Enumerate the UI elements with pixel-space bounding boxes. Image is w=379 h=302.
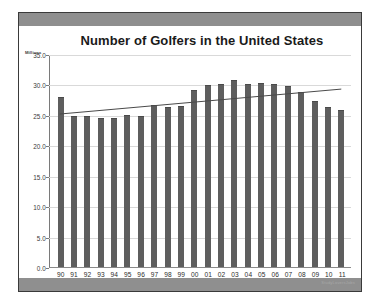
bar: [325, 107, 331, 267]
y-axis-tick-label: 0.0: [37, 265, 46, 272]
x-axis-tick-label: 04: [242, 271, 255, 278]
y-tick-mark: [46, 146, 49, 147]
x-axis-tick-label: 94: [108, 271, 121, 278]
x-axis-tick-label: 09: [309, 271, 322, 278]
y-tick-mark: [46, 207, 49, 208]
bar: [312, 101, 318, 267]
slide-header-bar: [19, 13, 361, 26]
bar-slot: [335, 55, 348, 267]
y-axis-tick-label: 20.0: [33, 143, 46, 150]
bar: [84, 116, 90, 267]
x-axis-tick-label: 92: [81, 271, 94, 278]
bar: [271, 84, 277, 267]
bar-slot: [121, 55, 134, 267]
bar: [151, 105, 157, 267]
x-axis-tick-label: 01: [201, 271, 214, 278]
x-axis-line: [49, 267, 351, 268]
bar: [98, 118, 104, 267]
slide-footer-bar: StudyLoversJobs: [19, 278, 361, 291]
slide-content: Number of Golfers in the United States M…: [19, 26, 361, 278]
y-axis-tick-label: 15.0: [33, 173, 46, 180]
bar: [165, 107, 171, 267]
bar: [205, 85, 211, 267]
bar-slot: [174, 55, 187, 267]
bar: [71, 116, 77, 267]
x-axis-tick-label: 07: [282, 271, 295, 278]
bar: [231, 80, 237, 267]
x-axis-tick-label: 03: [228, 271, 241, 278]
bar: [218, 84, 224, 267]
bar-slot: [268, 55, 281, 267]
x-axis-tick-label: 96: [134, 271, 147, 278]
x-axis-tick-label: 02: [215, 271, 228, 278]
x-axis-tick-label: 98: [161, 271, 174, 278]
bar-series: [50, 55, 351, 267]
bar-slot: [321, 55, 334, 267]
y-tick-mark: [46, 116, 49, 117]
x-axis-tick-label: 95: [121, 271, 134, 278]
bar-slot: [54, 55, 67, 267]
bar-slot: [201, 55, 214, 267]
bar: [124, 115, 130, 267]
bar-slot: [107, 55, 120, 267]
bar: [245, 84, 251, 267]
bar-slot: [228, 55, 241, 267]
bar: [285, 86, 291, 267]
x-axis-tick-label: 00: [188, 271, 201, 278]
bar: [298, 92, 304, 267]
bar: [138, 116, 144, 267]
chart-title: Number of Golfers in the United States: [19, 33, 361, 48]
bar-slot: [241, 55, 254, 267]
bar: [111, 118, 117, 267]
x-axis-tick-label: 05: [255, 271, 268, 278]
y-tick-mark: [46, 85, 49, 86]
x-axis-labels: 9091929394959697989900010203040506070809…: [50, 271, 352, 278]
y-axis-tick-label: 35.0: [33, 52, 46, 59]
bar-slot: [134, 55, 147, 267]
bar-slot: [94, 55, 107, 267]
y-axis-tick-label: 30.0: [33, 82, 46, 89]
bar: [58, 97, 64, 267]
bar-slot: [214, 55, 227, 267]
bar-slot: [148, 55, 161, 267]
bar-slot: [81, 55, 94, 267]
bar: [191, 90, 197, 267]
y-tick-mark: [46, 55, 49, 56]
bar: [178, 106, 184, 267]
y-axis-tick-label: 10.0: [33, 204, 46, 211]
x-axis-tick-label: 93: [94, 271, 107, 278]
chart-plot-area: 35.030.025.020.015.010.05.00.0: [49, 55, 351, 268]
y-axis-tick-label: 25.0: [33, 112, 46, 119]
bar-slot: [294, 55, 307, 267]
bar-slot: [254, 55, 267, 267]
bar-slot: [281, 55, 294, 267]
slide-frame: Number of Golfers in the United States M…: [18, 12, 362, 292]
bar-slot: [308, 55, 321, 267]
x-axis-tick-label: 10: [322, 271, 335, 278]
x-axis-tick-label: 08: [295, 271, 308, 278]
bar: [338, 110, 344, 267]
bar-slot: [188, 55, 201, 267]
x-axis-tick-label: 97: [148, 271, 161, 278]
x-axis-tick-label: 99: [175, 271, 188, 278]
y-tick-mark: [46, 268, 49, 269]
footer-watermark: StudyLoversJobs: [321, 280, 355, 285]
x-axis-tick-label: 11: [336, 271, 349, 278]
x-axis-tick-label: 91: [67, 271, 80, 278]
x-axis-tick-label: 90: [54, 271, 67, 278]
y-tick-mark: [46, 238, 49, 239]
bar-slot: [161, 55, 174, 267]
bar: [258, 83, 264, 267]
bar-slot: [67, 55, 80, 267]
x-axis-tick-label: 06: [269, 271, 282, 278]
y-tick-mark: [46, 177, 49, 178]
y-axis-tick-label: 5.0: [37, 234, 46, 241]
